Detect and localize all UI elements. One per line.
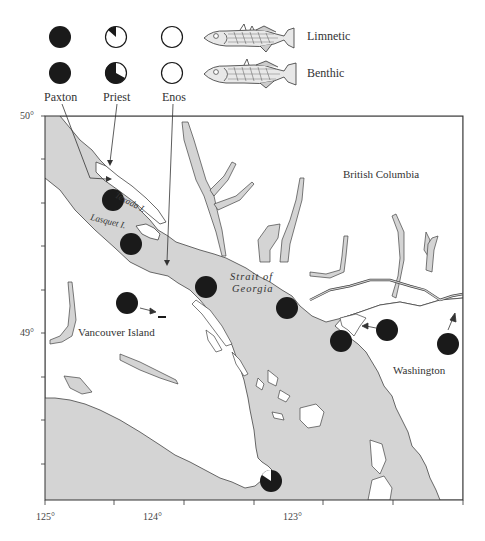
lon-label-124: 124° (143, 511, 162, 522)
paxton-label: Paxton (44, 90, 77, 105)
benthic-fish-icon (204, 59, 296, 88)
priest-benthic-marker (105, 62, 126, 83)
enos-benthic-marker (162, 63, 183, 84)
lat-label-50: 50° (20, 110, 34, 121)
limnetic-fish-icon (204, 24, 294, 52)
washington-label: Washington (393, 364, 445, 376)
site-marker (376, 319, 398, 341)
vancouver-island-label: Vancouver Island (78, 326, 155, 338)
priest-limnetic-marker (106, 26, 127, 47)
priest-label: Priest (103, 90, 130, 105)
legend-markers (49, 26, 183, 84)
strait-of-georgia-label-line1: Strait of (230, 271, 273, 282)
site-marker (120, 233, 142, 255)
site-marker (437, 333, 459, 355)
longitude-ticks (45, 500, 463, 505)
strait-of-georgia-label-line2: Georgia (232, 283, 274, 294)
latitude-ticks (41, 116, 45, 464)
site-marker (276, 297, 298, 319)
british-columbia-label: British Columbia (343, 168, 419, 180)
enos-label: Enos (162, 90, 186, 105)
site-marker (195, 276, 217, 298)
site-marker (330, 330, 352, 352)
site-marker (116, 292, 138, 314)
paxton-benthic-marker (49, 62, 71, 84)
limnetic-label: Limnetic (307, 29, 350, 44)
site-marker-pie (260, 470, 282, 492)
lat-label-49: 49° (20, 327, 34, 338)
paxton-limnetic-marker (49, 26, 71, 48)
lon-label-123: 123° (283, 511, 302, 522)
enos-limnetic-marker (162, 27, 183, 48)
benthic-label: Benthic (307, 66, 344, 81)
lon-label-125: 125° (36, 511, 55, 522)
